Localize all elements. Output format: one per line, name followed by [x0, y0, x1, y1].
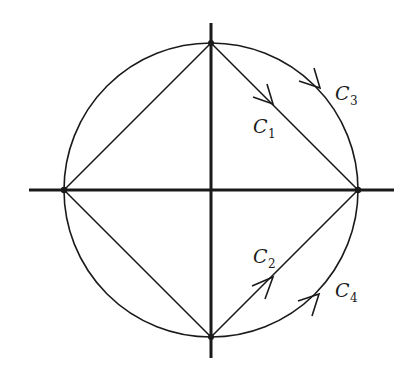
label-C3-main: C — [335, 82, 350, 104]
contour-diagram: C 1 C 3 C 2 C 4 — [0, 0, 413, 376]
point-top — [208, 40, 214, 46]
label-C1-main: C — [253, 115, 268, 137]
diagram-svg: C 1 C 3 C 2 C 4 — [0, 0, 413, 376]
chord-top-right-C1 — [211, 43, 358, 190]
label-C2: C 2 — [253, 245, 276, 271]
label-C4: C 4 — [335, 279, 358, 305]
point-bottom — [208, 334, 214, 340]
label-C3: C 3 — [335, 82, 358, 108]
label-C4-sub: 4 — [350, 291, 358, 305]
chord-bottom-left — [64, 190, 211, 337]
arrow-C2-icon — [252, 277, 273, 299]
label-C1: C 1 — [253, 115, 276, 141]
label-C1-sub: 1 — [268, 127, 276, 141]
label-C2-sub: 2 — [268, 257, 276, 271]
label-C4-main: C — [335, 279, 350, 301]
point-right — [355, 187, 361, 193]
arrow-C4-icon — [298, 294, 319, 316]
label-C2-main: C — [253, 245, 268, 267]
chord-top-left — [64, 43, 211, 190]
point-left — [61, 187, 67, 193]
chord-bottom-right-C2 — [211, 190, 358, 337]
arrow-C3-icon — [299, 68, 320, 88]
label-C3-sub: 3 — [350, 94, 358, 108]
